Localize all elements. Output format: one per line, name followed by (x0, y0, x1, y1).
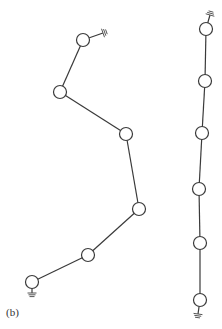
joint-node (82, 249, 95, 262)
ground-icon (194, 313, 203, 318)
ground-icon (206, 11, 215, 16)
link-segment (60, 40, 83, 92)
ground-icon (28, 293, 37, 297)
link-segment (32, 255, 88, 282)
link-segment (202, 81, 205, 133)
joint-node (196, 127, 209, 140)
joint-node (120, 128, 133, 141)
link-segment (88, 209, 139, 255)
link-segment (60, 92, 126, 134)
link-segment (199, 133, 202, 189)
chains-layer (26, 11, 215, 318)
joint-node (200, 23, 213, 36)
left-chain (26, 29, 146, 297)
joint-node (194, 237, 207, 250)
joint-node (194, 294, 207, 307)
linkage-diagram (0, 0, 222, 329)
joint-node (193, 183, 206, 196)
joint-node (26, 276, 39, 289)
link-segment (199, 189, 200, 243)
link-segment (126, 134, 139, 209)
right-chain (193, 11, 215, 318)
joint-node (199, 75, 212, 88)
joint-node (77, 34, 90, 47)
link-segment (205, 29, 206, 81)
joint-node (54, 86, 67, 99)
figure-label: (b) (6, 306, 19, 318)
joint-node (133, 203, 146, 216)
